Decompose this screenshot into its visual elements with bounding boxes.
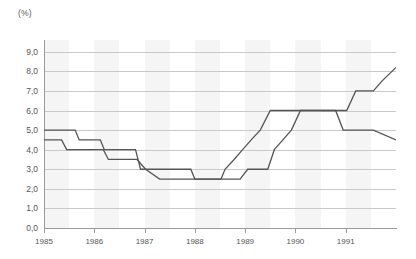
x-axis-tick-mark — [145, 228, 146, 233]
series-line — [44, 67, 396, 179]
x-axis-tick-label: 1990 — [275, 237, 315, 246]
y-axis-tick-label: 9,0 — [8, 47, 38, 57]
x-axis-tick-label: 1989 — [225, 237, 265, 246]
x-axis-tick-mark — [295, 228, 296, 233]
x-axis-tick-mark — [245, 228, 246, 233]
x-axis-tick-label: 1991 — [326, 237, 366, 246]
series-line — [44, 111, 396, 180]
chart-container: (%) 0,01,02,03,04,05,06,07,08,09,0 19851… — [0, 0, 416, 259]
y-axis-tick-label: 2,0 — [8, 184, 38, 194]
x-axis-tick-label: 1987 — [125, 237, 165, 246]
y-axis-tick-label: 5,0 — [8, 125, 38, 135]
x-axis-tick-mark — [94, 228, 95, 233]
x-axis-tick-mark — [346, 228, 347, 233]
x-axis-tick-label: 1986 — [74, 237, 114, 246]
x-axis-tick-mark — [44, 228, 45, 233]
y-axis-tick-label: 7,0 — [8, 86, 38, 96]
y-axis-tick-label: 8,0 — [8, 66, 38, 76]
y-axis-tick-label: 0,0 — [8, 223, 38, 233]
y-axis-tick-label: 6,0 — [8, 106, 38, 116]
y-axis-tick-label: 1,0 — [8, 203, 38, 213]
x-axis-tick-mark — [195, 228, 196, 233]
x-axis-tick-label: 1985 — [24, 237, 64, 246]
x-axis-tick-label: 1988 — [175, 237, 215, 246]
y-axis-unit-label: (%) — [18, 8, 32, 18]
y-axis-tick-label: 4,0 — [8, 145, 38, 155]
y-axis-tick-label: 3,0 — [8, 164, 38, 174]
series-layer — [44, 40, 396, 229]
